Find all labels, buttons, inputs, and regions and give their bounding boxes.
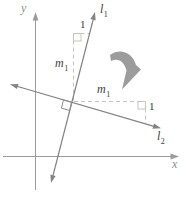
slope-right-label-base: m bbox=[97, 82, 106, 96]
right-angle-square-top bbox=[74, 34, 82, 42]
line-l2-label-base: l bbox=[157, 129, 160, 143]
slope-left-label-base: m bbox=[55, 56, 64, 70]
l2-arrowhead-left bbox=[10, 84, 19, 89]
right-angle-square-right bbox=[138, 102, 146, 110]
slope-right-label-sub: 1 bbox=[106, 90, 110, 99]
rotation-arrow-icon bbox=[110, 51, 141, 89]
rise-right-label-text: 1 bbox=[149, 100, 155, 112]
y-axis-label: y bbox=[21, 2, 26, 14]
l1-arrowhead-bottom bbox=[50, 175, 55, 183]
line-l2-label-sub: 2 bbox=[161, 137, 165, 146]
l1-arrowhead-top bbox=[90, 12, 95, 20]
line-l2 bbox=[16, 86, 154, 126]
run-top-label: 1 bbox=[80, 18, 86, 30]
line-l1-label: l1 bbox=[100, 3, 107, 20]
line-l2-label: l2 bbox=[157, 130, 164, 147]
perpendicular-lines-figure: y x l1 l2 1 m1 m1 1 bbox=[0, 0, 187, 197]
slope-right-label: m1 bbox=[97, 83, 110, 100]
line-l1-label-sub: 1 bbox=[104, 10, 108, 19]
x-axis-label-text: x bbox=[172, 157, 177, 171]
right-angle-marker-intersection bbox=[61, 100, 71, 111]
line-l1-label-base: l bbox=[100, 2, 103, 16]
rise-right-label: 1 bbox=[149, 100, 155, 112]
figure-drawing bbox=[0, 0, 187, 197]
slope-left-label-sub: 1 bbox=[64, 64, 68, 73]
slope-left-label: m1 bbox=[55, 57, 68, 74]
y-axis-label-text: y bbox=[21, 1, 26, 15]
run-top-label-text: 1 bbox=[80, 18, 86, 30]
y-axis-arrowhead bbox=[33, 12, 39, 21]
l2-arrowhead-right bbox=[153, 124, 162, 129]
x-axis-label: x bbox=[172, 158, 177, 170]
